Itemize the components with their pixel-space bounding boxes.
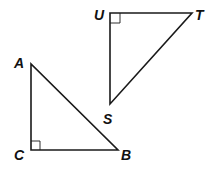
triangle-abc-outline	[31, 64, 118, 150]
triangle-stu: U T S	[94, 7, 205, 127]
vertex-label-u: U	[94, 7, 105, 23]
vertex-label-s: S	[103, 111, 113, 127]
vertex-label-a: A	[13, 55, 24, 71]
right-triangles-diagram: A C B U T S	[0, 0, 212, 169]
triangle-stu-outline	[110, 13, 192, 104]
right-angle-marker-c	[31, 141, 40, 150]
right-angle-marker-u	[110, 13, 120, 23]
vertex-label-t: T	[195, 7, 205, 23]
vertex-label-b: B	[121, 147, 131, 163]
triangle-abc: A C B	[13, 55, 131, 163]
vertex-label-c: C	[14, 147, 25, 163]
